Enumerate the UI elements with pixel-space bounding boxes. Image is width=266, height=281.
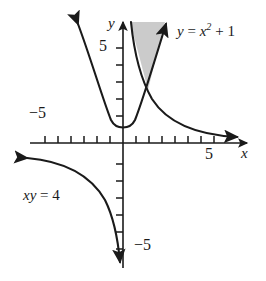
parabola-eq-constant: 1 [227,23,235,39]
y-axis-label: y [108,16,115,31]
y-axis-ticks [116,48,123,249]
parabola-eq-plus: + [215,23,223,39]
hyperbola-eq-constant: 4 [52,187,60,203]
y-axis-tick-label-5: 5 [99,38,107,54]
x-axis-label: x [241,146,248,161]
parabola-eq-y: y [177,23,184,39]
parabola-eq-equals: = [187,23,195,39]
graph-figure: y x 5 −5 5 −5 y = x2 + 1 xy = 4 [0,0,266,281]
x-axis-ticks [45,136,214,143]
x-axis-tick-label-negative-5: −5 [29,105,46,121]
x-axis-tick-label-5: 5 [205,146,213,162]
parabola-equation-label: y = x2 + 1 [177,22,235,39]
coordinate-plane-svg [0,0,266,281]
hyperbola-eq-equals: = [40,187,48,203]
hyperbola-equation-label: xy = 4 [23,188,60,203]
hyperbola-branch-three [27,158,120,262]
hyperbola-eq-vars: xy [23,187,36,203]
y-axis-tick-label-negative-5: −5 [134,237,151,253]
